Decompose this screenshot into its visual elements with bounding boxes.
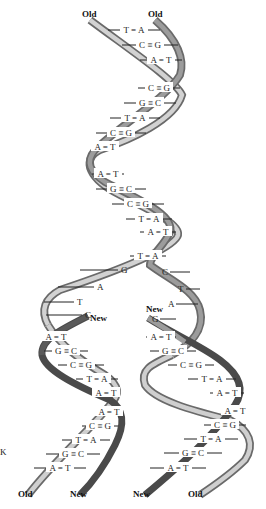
base-pair: C ≡ G	[139, 40, 162, 50]
base-pair: G ≡ C	[139, 98, 161, 108]
base-pair: C ≡ G	[70, 360, 93, 370]
dna-replication-diagram: Old Old New New Old New New Old K T = AC…	[0, 0, 266, 509]
label-bottom-right-new: New	[133, 489, 150, 499]
base-pair: A = T	[98, 169, 119, 179]
unpaired-base: C	[162, 267, 168, 277]
label-bottom-left-old: Old	[18, 489, 33, 499]
base-pair: A = T	[151, 332, 172, 342]
unpaired-base: G	[121, 265, 128, 275]
base-pair: A = T	[96, 388, 117, 398]
label-bottom-left-new: New	[70, 489, 87, 499]
base-pair: A = T	[148, 227, 169, 237]
unpaired-bases: GATCCTAG	[44, 265, 200, 324]
unpaired-base: C	[85, 310, 91, 320]
label-bottom-right-old: Old	[188, 489, 203, 499]
base-pair: T = A	[87, 374, 108, 384]
unpaired-base: A	[97, 282, 104, 292]
side-mark: K	[0, 447, 7, 457]
base-pair: G ≡ C	[62, 449, 84, 459]
base-pair: C ≡ G	[214, 420, 237, 430]
base-pair: T = A	[139, 214, 160, 224]
base-pair: G ≡ C	[110, 184, 132, 194]
base-pair: T = A	[76, 435, 97, 445]
base-pair: A = T	[217, 388, 238, 398]
base-pair: T = A	[124, 25, 145, 35]
base-pair: G ≡ C	[162, 346, 184, 356]
unpaired-base: T	[77, 297, 83, 307]
unpaired-base: G	[152, 314, 159, 324]
base-pair: A = T	[95, 142, 116, 152]
label-top-left-old: Old	[82, 9, 97, 19]
base-pair: A = T	[168, 463, 189, 473]
base-pair: T = A	[138, 251, 159, 261]
base-pair: T = A	[202, 374, 223, 384]
unpaired-base: T	[178, 284, 184, 294]
label-fork-new-right: New	[146, 304, 163, 314]
base-pair: C ≡ G	[89, 421, 112, 431]
label-top-right-old: Old	[148, 9, 163, 19]
base-pair: G ≡ C	[55, 346, 77, 356]
unpaired-base: A	[168, 299, 175, 309]
base-pair: A = T	[50, 463, 71, 473]
base-pair: G ≡ C	[182, 448, 204, 458]
base-pair: C ≡ G	[148, 83, 171, 93]
label-fork-new-left: New	[90, 313, 107, 323]
base-pair: T = A	[125, 113, 146, 123]
base-pair: A = T	[225, 406, 246, 416]
base-pair: C ≡ G	[110, 128, 133, 138]
base-pair: A = T	[46, 332, 67, 342]
base-pair: A = T	[151, 55, 172, 65]
base-pair: T = A	[201, 434, 222, 444]
base-pair: C ≡ G	[127, 199, 150, 209]
base-pair: A = T	[99, 407, 120, 417]
base-pair: C ≡ G	[180, 360, 203, 370]
